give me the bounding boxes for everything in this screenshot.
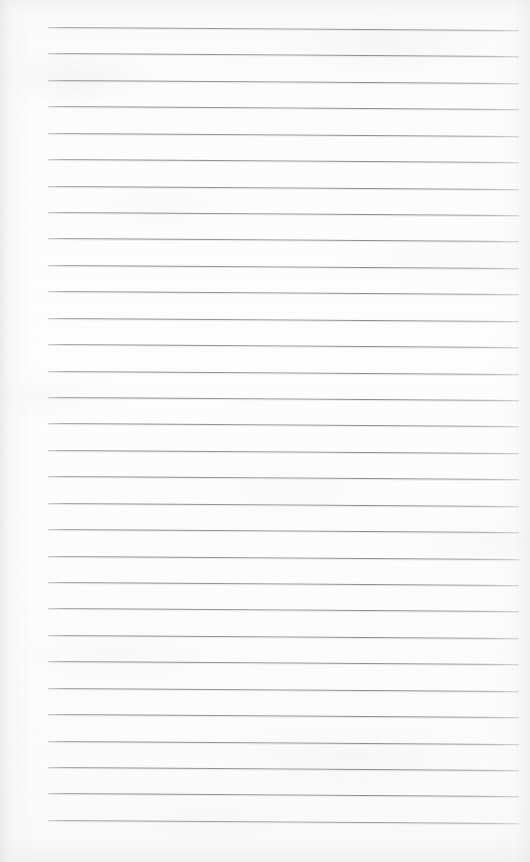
scanned-page	[0, 0, 530, 862]
paper-background	[0, 0, 530, 862]
